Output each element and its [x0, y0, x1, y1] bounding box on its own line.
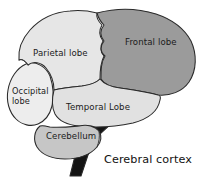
parietal-lobe-label: Parietal lobe — [33, 48, 88, 58]
occipital-lobe-label-line2: lobe — [12, 96, 30, 106]
temporal-lobe-label: Temporal Lobe — [65, 102, 130, 112]
frontal-lobe-label: Frontal lobe — [125, 37, 177, 47]
occipital-lobe-label-line1: Occipital — [12, 86, 49, 96]
frontal-lobe-shape[interactable] — [97, 9, 195, 95]
brain-diagram: Parietal lobe Frontal lobe Occipital lob… — [0, 0, 213, 182]
cerebral-cortex-caption: Cerebral cortex — [104, 153, 192, 166]
brain-illustration: Parietal lobe Frontal lobe Occipital lob… — [0, 0, 213, 182]
cerebellum-label: Cerebellum — [46, 131, 96, 141]
